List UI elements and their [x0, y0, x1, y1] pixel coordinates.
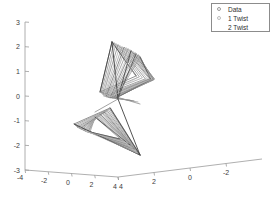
legend-label-data: Data	[228, 5, 242, 14]
figure-canvas: 3 2 1 0 -1 -2 -3 -4 -2 0 2 4	[0, 0, 277, 201]
vertical-axis-tick-labels: 3 2 1 0 -1 -2 -3	[14, 19, 20, 174]
vertical-axis-ticks	[25, 22, 29, 170]
legend-label-1twist: 1 Twist	[228, 14, 248, 23]
ztick-1: 1	[16, 68, 20, 75]
xtick-m2: -2	[41, 177, 47, 184]
xtick-m4: -4	[17, 174, 23, 181]
xtick-2: 2	[90, 181, 94, 188]
ztick-3: 3	[16, 19, 20, 26]
ytick-m2: -2	[223, 169, 229, 176]
ztick-m2: -2	[14, 142, 20, 149]
legend-label-2twist: 2 Twist	[228, 23, 248, 32]
circle-marker-icon	[212, 14, 228, 23]
xtick-0: 0	[66, 179, 70, 186]
series-data-lower	[74, 108, 140, 155]
no-marker-icon	[212, 23, 228, 32]
ztick-m1: -1	[14, 117, 20, 124]
legend-entry-2twist[interactable]: 2 Twist	[212, 23, 271, 32]
ytick-2: 2	[152, 178, 156, 185]
bottom-right-axis-ticks	[118, 164, 227, 181]
bottom-left-axis-tick-labels: -4 -2 0 2 4	[17, 174, 117, 190]
axis-frame	[25, 22, 262, 177]
legend[interactable]: Data 1 Twist 2 Twist	[211, 3, 270, 32]
legend-entry-data[interactable]: Data	[212, 5, 271, 14]
circle-marker-icon	[212, 5, 228, 14]
ytick-0: 0	[188, 174, 192, 181]
data-series-group	[74, 42, 154, 155]
xtick-4: 4	[113, 183, 117, 190]
ztick-m3: -3	[14, 167, 20, 174]
legend-entry-1twist[interactable]: 1 Twist	[212, 14, 271, 23]
bottom-right-axis-tick-labels: 4 2 0 -2	[119, 169, 229, 190]
bottom-left-axis-ticks	[25, 170, 119, 180]
ztick-0: 0	[16, 93, 20, 100]
ztick-2: 2	[16, 43, 20, 50]
ytick-4: 4	[119, 183, 123, 190]
